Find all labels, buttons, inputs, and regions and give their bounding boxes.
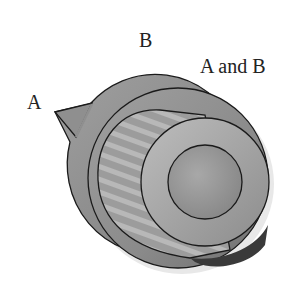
label-b: B — [139, 30, 152, 50]
region-a-and-b-inner-circle — [168, 145, 242, 219]
label-a: A — [27, 92, 41, 112]
diagram-canvas: A B A and B — [0, 0, 301, 300]
label-a-and-b: A and B — [200, 56, 266, 76]
